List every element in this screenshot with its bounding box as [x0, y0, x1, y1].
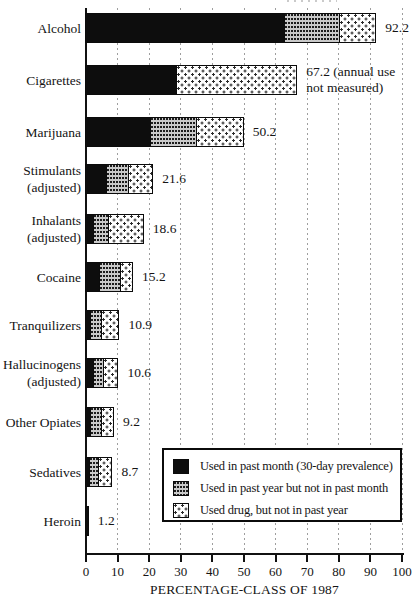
x-axis-title: PERCENTAGE-CLASS OF 1987 [86, 582, 403, 598]
bar-segment-past-month [85, 164, 107, 194]
x-tick-label: 90 [356, 564, 384, 580]
x-tick-30 [180, 555, 182, 562]
bar-segment-not-past-year [120, 262, 133, 292]
legend-label: Used in past year but not in past month [200, 481, 388, 496]
legend-box: Used in past month (30-day prevalence) U… [162, 448, 402, 522]
legend-item-not-past-year: Used drug, but not in past year [173, 502, 348, 518]
category-label: Marijuana [0, 112, 81, 152]
bar-row [85, 457, 112, 487]
bar-segment-past-month [85, 13, 286, 43]
x-tick-label: 100 [388, 564, 416, 580]
value-label: 9.2 [123, 399, 140, 445]
bar-row [85, 117, 244, 147]
legend-item-past-month: Used in past month (30-day prevalence) [173, 458, 393, 474]
x-tick-80 [338, 555, 340, 562]
prevalence-chart: Alcohol92.2Cigarettes67.2 (annual use no… [0, 0, 419, 601]
value-label: 18.6 [153, 206, 177, 252]
not-past-year-swatch-icon [173, 503, 189, 518]
bar-segment-not-past-year [101, 310, 120, 340]
bar-segment-past-year [284, 13, 341, 43]
bar-row [85, 13, 376, 43]
bar-segment-past-month [85, 506, 89, 536]
category-label: Hallucinogens (adjusted) [0, 353, 81, 393]
bar-row [85, 506, 89, 536]
cropped-title-remnant [287, 0, 337, 2]
bar-row [85, 262, 133, 292]
category-label: Cocaine [0, 257, 81, 297]
x-tick-label: 20 [135, 564, 163, 580]
bar-segment-past-year [150, 117, 197, 147]
bar-segment-not-past-year [176, 65, 297, 95]
bar-row [85, 358, 118, 388]
bar-row [85, 214, 144, 244]
bar-row [85, 164, 153, 194]
x-tick-70 [306, 555, 308, 562]
bar-segment-not-past-year [339, 13, 376, 43]
value-label: 1.2 [98, 498, 115, 544]
x-tick-label: 30 [167, 564, 195, 580]
x-tick-60 [275, 555, 277, 562]
past-month-swatch-icon [173, 459, 189, 474]
x-tick-40 [211, 555, 213, 562]
bar-segment-not-past-year [128, 164, 154, 194]
bar-segment-past-year [99, 262, 122, 292]
x-tick-0 [85, 555, 87, 562]
x-tick-50 [243, 555, 245, 562]
legend-item-past-year: Used in past year but not in past month [173, 480, 388, 496]
value-label: 8.7 [121, 449, 138, 495]
x-tick-10 [117, 555, 119, 562]
bar-segment-not-past-year [196, 117, 244, 147]
x-tick-label: 80 [325, 564, 353, 580]
value-label: 10.9 [128, 302, 152, 348]
value-label: 21.6 [162, 156, 186, 202]
bar-segment-not-past-year [103, 358, 118, 388]
x-tick-label: 40 [198, 564, 226, 580]
category-label: Sedatives [0, 452, 81, 492]
x-tick-label: 50 [230, 564, 258, 580]
value-label: 10.6 [127, 350, 151, 396]
category-label: Alcohol [0, 8, 81, 48]
bar-segment-past-year [106, 164, 130, 194]
category-label: Tranquilizers [0, 305, 81, 345]
x-tick-label: 70 [293, 564, 321, 580]
value-label: 50.2 [253, 109, 277, 155]
x-tick-100 [401, 555, 403, 562]
value-label: 92.2 [385, 5, 409, 51]
bar-segment-not-past-year [108, 214, 144, 244]
value-label: 67.2 (annual use not measured) [306, 57, 395, 103]
bar-row [85, 310, 119, 340]
bar-segment-past-month [85, 65, 178, 95]
category-label: Inhalants (adjusted) [0, 209, 81, 249]
bar-segment-past-year [93, 214, 110, 244]
bar-segment-not-past-year [101, 407, 115, 437]
legend-label: Used in past month (30-day prevalence) [200, 459, 393, 474]
category-label: Other Opiates [0, 402, 81, 442]
bar-segment-past-month [85, 117, 151, 147]
bar-segment-not-past-year [98, 457, 112, 487]
x-tick-label: 60 [262, 564, 290, 580]
category-label: Stimulants (adjusted) [0, 159, 81, 199]
value-label: 15.2 [142, 254, 166, 300]
category-label: Heroin [0, 501, 81, 541]
bar-row [85, 65, 297, 95]
x-tick-label: 10 [104, 564, 132, 580]
x-tick-90 [369, 555, 371, 562]
past-year-swatch-icon [173, 481, 189, 496]
x-tick-label: 0 [72, 564, 100, 580]
x-tick-20 [148, 555, 150, 562]
legend-label: Used drug, but not in past year [200, 503, 348, 518]
category-label: Cigarettes [0, 60, 81, 100]
bar-row [85, 407, 114, 437]
